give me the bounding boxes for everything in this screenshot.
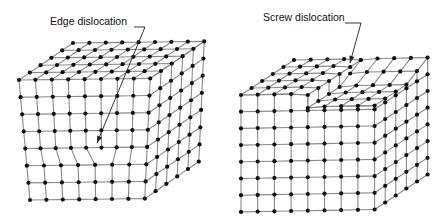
atom-dot: [383, 167, 387, 171]
atom-dot: [415, 113, 419, 117]
edge-leader-line: [97, 27, 145, 143]
atom-dot: [36, 112, 40, 116]
atom-dot: [322, 175, 326, 179]
bond-line: [190, 100, 191, 117]
atom-dot: [93, 180, 97, 184]
atom-dot: [266, 86, 270, 90]
atom-dot: [260, 79, 264, 83]
atom-dot: [60, 180, 64, 184]
atom-dot: [383, 150, 387, 154]
bond-line: [61, 165, 62, 182]
atom-dot: [109, 48, 113, 52]
screw-dislocation-label: Screw dislocation: [263, 11, 345, 23]
atom-dot: [197, 142, 201, 146]
atom-dot: [415, 146, 419, 150]
atom-dot: [239, 93, 243, 97]
atom-dot: [170, 62, 174, 66]
atom-dot: [67, 94, 71, 98]
atom-dot: [165, 165, 169, 169]
atom-dot: [356, 191, 360, 195]
atom-dot: [356, 208, 360, 212]
atom-dot: [84, 146, 88, 150]
atom-dot: [167, 113, 171, 117]
atom-dot: [120, 40, 124, 44]
atom-dot: [69, 146, 73, 150]
atom-dot: [153, 40, 157, 44]
atom-dot: [426, 106, 430, 110]
bond-line: [38, 114, 39, 131]
atom-dot: [93, 163, 97, 167]
atom-dot: [331, 64, 335, 68]
atom-dot: [190, 81, 194, 85]
atom-dot: [35, 95, 39, 99]
atom-dot: [115, 128, 119, 132]
atom-dot: [239, 126, 243, 130]
bond-line: [62, 182, 63, 199]
atom-dot: [121, 62, 125, 66]
atom-dot: [298, 65, 302, 69]
bond-line: [19, 80, 21, 97]
atom-dot: [84, 129, 88, 133]
atom-dot: [256, 210, 260, 214]
atom-dot: [289, 176, 293, 180]
atom-dot: [104, 62, 108, 66]
atom-dot: [388, 83, 392, 87]
atom-dot: [17, 78, 21, 82]
bond-line: [45, 183, 46, 200]
atom-dot: [272, 209, 276, 213]
bond-line: [193, 49, 194, 66]
atom-dot: [33, 78, 37, 82]
bond-line: [146, 164, 147, 181]
atom-dot: [289, 125, 293, 129]
atom-dot: [99, 77, 103, 81]
atom-dot: [49, 56, 53, 60]
bond-line: [147, 130, 148, 147]
atom-dot: [404, 120, 408, 124]
atom-dot: [321, 71, 325, 75]
atom-dot: [28, 198, 32, 202]
atom-dot: [394, 177, 398, 181]
atom-dot: [164, 54, 168, 58]
atom-dot: [239, 176, 243, 180]
atom-dot: [68, 129, 72, 133]
atom-dot: [272, 176, 276, 180]
bond-line: [167, 150, 168, 167]
bond-line: [291, 94, 308, 95]
bond-line: [312, 80, 329, 81]
atom-dot: [186, 40, 190, 44]
atom-dot: [110, 163, 114, 167]
atom-dot: [292, 58, 296, 62]
atom-dot: [158, 86, 162, 90]
atom-dot: [157, 120, 161, 124]
atom-dot: [339, 141, 343, 145]
atom-dot: [415, 96, 419, 100]
atom-dot: [154, 172, 158, 176]
bond-line: [182, 56, 183, 73]
bond-line: [78, 165, 79, 182]
bond-line: [157, 140, 158, 157]
atom-dot: [339, 208, 343, 212]
atom-dot: [115, 145, 119, 149]
atom-dot: [339, 191, 343, 195]
atom-dot: [375, 56, 379, 60]
atom-dot: [404, 186, 408, 190]
atom-dot: [373, 104, 377, 108]
atom-dot: [126, 197, 130, 201]
atom-dot: [426, 89, 430, 93]
atom-dot: [147, 111, 151, 115]
atom-dot: [339, 125, 343, 129]
bond-line: [400, 58, 411, 72]
bond-line: [70, 131, 71, 148]
bond-line: [166, 167, 167, 184]
atom-dot: [356, 174, 360, 178]
bond-line: [199, 144, 200, 161]
atom-dot: [110, 197, 114, 201]
bond-line: [156, 157, 157, 174]
atom-dot: [377, 90, 381, 94]
bond-line: [200, 110, 201, 127]
atom-dot: [239, 210, 243, 214]
atom-dot: [415, 163, 419, 167]
atom-dot: [191, 47, 195, 51]
atom-dot: [306, 142, 310, 146]
atom-dot: [175, 47, 179, 51]
